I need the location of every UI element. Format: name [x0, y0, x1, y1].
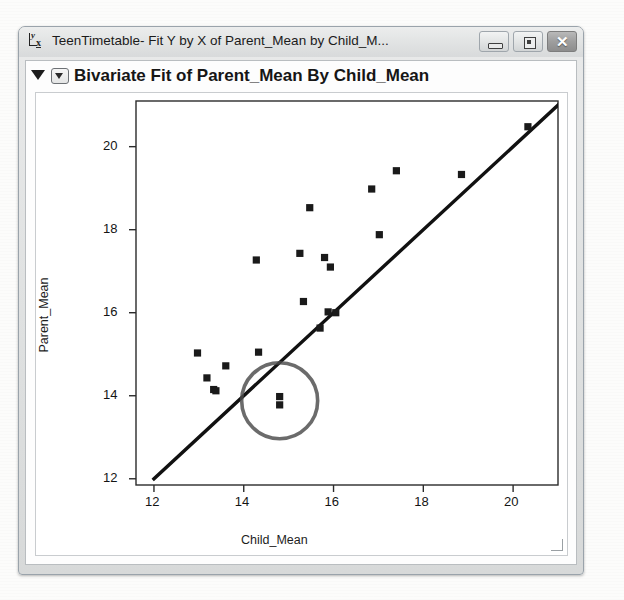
y-tick-label: 18: [103, 221, 117, 236]
y-tick-label: 16: [103, 304, 117, 319]
minimize-icon: [488, 43, 503, 49]
window-titlebar[interactable]: y x TeenTimetable- Fit Y by X of Parent_…: [19, 27, 583, 57]
data-point-marker: [300, 298, 307, 305]
resize-grip[interactable]: [551, 539, 563, 551]
fit-y-by-x-icon: y x: [28, 32, 46, 50]
scatter-plot-svg: [36, 93, 567, 555]
data-point-marker: [327, 263, 334, 270]
x-axis-title: Child_Mean: [241, 533, 308, 547]
data-point-marker: [325, 308, 332, 315]
report-title: Bivariate Fit of Parent_Mean By Child_Me…: [74, 66, 429, 86]
data-point-marker: [203, 374, 210, 381]
data-point-marker: [393, 167, 400, 174]
data-point-marker: [276, 401, 283, 408]
data-point-marker: [306, 204, 313, 211]
x-tick-label: 16: [325, 494, 339, 509]
data-point-marker: [321, 254, 328, 261]
close-icon: ✕: [548, 32, 576, 51]
maximize-icon: [524, 37, 536, 49]
data-point-marker: [376, 231, 383, 238]
bivariate-plot-panel[interactable]: Parent_Mean Child_Mean 12141618201214161…: [35, 92, 568, 556]
data-point-marker: [194, 349, 201, 356]
y-tick-label: 14: [103, 387, 117, 402]
minimize-button[interactable]: [479, 31, 509, 52]
data-point-marker: [316, 324, 323, 331]
x-tick-label: 20: [504, 494, 518, 509]
y-axis-title: Parent_Mean: [37, 277, 51, 352]
report-header: Bivariate Fit of Parent_Mean By Child_Me…: [26, 61, 576, 91]
data-point-marker: [458, 171, 465, 178]
jmp-report-window[interactable]: y x TeenTimetable- Fit Y by X of Parent_…: [18, 26, 584, 575]
data-point-marker: [276, 393, 283, 400]
report-surface: Bivariate Fit of Parent_Mean By Child_Me…: [25, 60, 577, 565]
data-point-marker: [253, 256, 260, 263]
window-controls: ✕: [479, 31, 577, 52]
data-point-marker: [332, 309, 339, 316]
close-button[interactable]: ✕: [547, 31, 577, 52]
x-tick-label: 14: [235, 494, 249, 509]
data-point-marker: [222, 362, 229, 369]
data-point-marker: [255, 349, 262, 356]
data-point-marker: [212, 387, 219, 394]
data-point-marker: [524, 123, 531, 130]
y-tick-label: 12: [103, 470, 117, 485]
data-point-marker: [296, 250, 303, 257]
plot-frame: [136, 101, 558, 485]
outline-disclosure-triangle-icon[interactable]: [31, 70, 45, 80]
x-tick-label: 12: [145, 494, 159, 509]
y-tick-label: 20: [103, 138, 117, 153]
section-disclosure-triangle-icon[interactable]: [51, 68, 69, 84]
data-point-marker: [368, 185, 375, 192]
window-title: TeenTimetable- Fit Y by X of Parent_Mean…: [52, 33, 389, 48]
x-tick-label: 18: [414, 494, 428, 509]
maximize-button[interactable]: [513, 31, 543, 52]
